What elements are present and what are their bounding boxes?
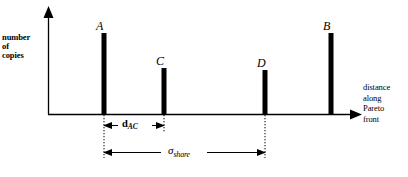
x-axis-label-line-2: along (363, 93, 408, 104)
bar-a (102, 33, 107, 115)
bar-d (263, 70, 268, 115)
distance-ac-subscript: AC (128, 122, 138, 131)
distance-ac-label: dAC (122, 118, 137, 131)
bar-c (162, 68, 167, 115)
x-axis-label: distance along Pareto front (363, 82, 408, 125)
bars-group (102, 33, 334, 115)
sigma-share-subscript: share (173, 150, 189, 159)
x-axis-label-line-3: Pareto (363, 103, 408, 114)
peak-label-c: C (156, 55, 164, 68)
fitness-sharing-figure: number of copies distance along Pareto f… (0, 0, 408, 177)
bar-b (329, 33, 334, 115)
figure-canvas (0, 0, 408, 177)
x-axis-label-line-1: distance (363, 82, 408, 93)
x-axis-label-line-4: front (363, 114, 408, 125)
x-axis-arrowhead (350, 110, 362, 120)
sigma-share-label: σshare (168, 145, 190, 159)
y-axis (44, 6, 54, 115)
peak-label-a: A (96, 20, 103, 33)
peak-label-b: B (323, 20, 330, 33)
peak-label-d: D (257, 57, 266, 70)
x-axis (48, 110, 362, 120)
y-axis-label: number of copies (2, 33, 48, 60)
y-axis-arrowhead (44, 6, 54, 18)
y-axis-label-line-3: copies (2, 51, 48, 60)
